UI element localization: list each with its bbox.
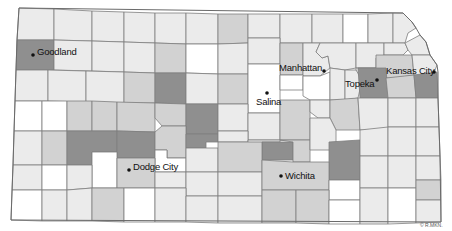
kansas-county-map bbox=[0, 0, 452, 231]
county-70 bbox=[262, 142, 293, 160]
county-9 bbox=[312, 14, 343, 43]
county-0 bbox=[17, 8, 54, 40]
county-35 bbox=[218, 74, 248, 104]
county-102 bbox=[360, 188, 388, 224]
county-75 bbox=[388, 127, 416, 156]
county-59 bbox=[416, 98, 439, 127]
county-60 bbox=[13, 131, 42, 165]
county-18 bbox=[186, 44, 218, 74]
county-79 bbox=[67, 165, 92, 190]
city-label-dodge-city: Dodge City bbox=[133, 162, 178, 172]
county-7 bbox=[248, 14, 280, 38]
county-54 bbox=[280, 100, 310, 140]
county-58 bbox=[388, 98, 416, 127]
county-6 bbox=[218, 14, 248, 44]
county-95 bbox=[124, 188, 155, 222]
county-55 bbox=[310, 100, 330, 118]
county-52 bbox=[218, 104, 248, 131]
county-68 bbox=[218, 131, 248, 142]
county-26 bbox=[405, 35, 430, 55]
county-84 bbox=[186, 172, 218, 196]
map-credit: © R.MKN. bbox=[420, 222, 443, 228]
county-101 bbox=[329, 200, 360, 224]
county-34 bbox=[186, 73, 218, 104]
county-91 bbox=[11, 190, 42, 221]
county-50 bbox=[155, 103, 186, 126]
county-16 bbox=[124, 42, 155, 73]
county-33 bbox=[155, 73, 186, 104]
county-4 bbox=[155, 13, 186, 44]
county-100 bbox=[296, 190, 329, 224]
county-19 bbox=[218, 43, 248, 74]
county-81 bbox=[155, 172, 186, 188]
county-12 bbox=[393, 13, 416, 43]
county-61 bbox=[42, 131, 67, 165]
county-99 bbox=[262, 190, 296, 223]
county-105 bbox=[416, 200, 441, 223]
county-17 bbox=[155, 43, 186, 73]
county-29 bbox=[15, 70, 48, 101]
county-56 bbox=[330, 98, 360, 130]
county-73 bbox=[329, 140, 360, 180]
county-20 bbox=[248, 38, 280, 64]
county-49 bbox=[117, 102, 155, 132]
county-103 bbox=[388, 188, 416, 224]
city-label-topeka: Topeka bbox=[345, 79, 374, 89]
county-64 bbox=[92, 152, 117, 188]
county-77 bbox=[12, 165, 42, 190]
county-39 bbox=[330, 68, 345, 100]
county-76 bbox=[416, 127, 440, 156]
county-11 bbox=[368, 13, 393, 43]
county-53 bbox=[248, 113, 280, 140]
county-83 bbox=[218, 142, 262, 172]
county-47 bbox=[67, 101, 92, 131]
city-marker-icon bbox=[127, 168, 131, 172]
county-5 bbox=[186, 13, 218, 44]
county-10 bbox=[343, 14, 368, 43]
county-38 bbox=[303, 72, 330, 100]
city-marker-icon bbox=[279, 174, 283, 178]
county-46 bbox=[42, 101, 67, 131]
county-67 bbox=[186, 134, 218, 148]
county-45 bbox=[14, 101, 42, 131]
county-96 bbox=[155, 188, 186, 222]
county-15 bbox=[92, 41, 124, 72]
county-51 bbox=[186, 104, 218, 134]
county-98 bbox=[218, 196, 262, 223]
city-label-goodland: Goodland bbox=[37, 47, 77, 57]
county-2 bbox=[92, 11, 124, 42]
county-90 bbox=[416, 156, 441, 180]
county-92 bbox=[42, 190, 67, 221]
county-63 bbox=[117, 131, 155, 158]
county-3 bbox=[124, 12, 155, 43]
county-78 bbox=[42, 165, 67, 190]
city-marker-icon bbox=[322, 69, 326, 73]
county-87 bbox=[329, 180, 360, 200]
county-93 bbox=[67, 188, 92, 221]
county-85 bbox=[218, 172, 262, 196]
city-label-kansas-city: Kansas City bbox=[386, 66, 435, 76]
city-marker-icon bbox=[265, 91, 269, 95]
city-label-salina: Salina bbox=[256, 97, 281, 107]
county-97 bbox=[186, 196, 218, 223]
county-88 bbox=[360, 156, 388, 188]
county-94 bbox=[92, 188, 124, 222]
county-30 bbox=[48, 70, 86, 102]
city-marker-icon bbox=[31, 53, 35, 57]
city-label-wichita: Wichita bbox=[285, 171, 315, 181]
county-8 bbox=[280, 14, 312, 43]
county-48 bbox=[92, 101, 117, 131]
county-1 bbox=[54, 9, 92, 41]
county-31 bbox=[86, 71, 124, 103]
county-89 bbox=[388, 156, 416, 188]
county-82 bbox=[186, 148, 218, 172]
city-label-manhattan: Manhattan bbox=[279, 63, 322, 73]
county-25 bbox=[384, 43, 408, 55]
city-marker-icon bbox=[375, 78, 379, 82]
county-104 bbox=[416, 180, 441, 200]
county-43 bbox=[386, 75, 416, 98]
county-37 bbox=[280, 75, 303, 90]
county-32 bbox=[124, 72, 155, 103]
county-74 bbox=[360, 127, 388, 156]
county-57 bbox=[358, 98, 388, 130]
